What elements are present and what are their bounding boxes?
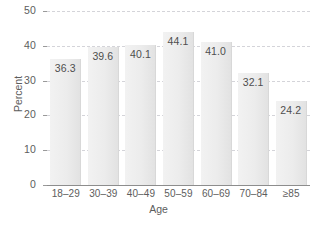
y-axis-tick-label: 0 xyxy=(10,178,36,190)
bar-value-label: 39.6 xyxy=(88,50,118,62)
x-axis-tick-label: 18–29 xyxy=(47,188,85,199)
y-axis-tick-label: 50 xyxy=(10,4,36,16)
y-axis-title: Percent xyxy=(12,54,24,134)
bar: 41.0 xyxy=(201,42,232,185)
bar-value-label: 40.1 xyxy=(125,48,155,60)
bar: 44.1 xyxy=(163,32,194,185)
y-axis-tick-label: 10 xyxy=(10,143,36,155)
bar: 39.6 xyxy=(88,47,119,185)
bar: 36.3 xyxy=(50,59,81,185)
x-axis-tick-label: 50–59 xyxy=(160,188,198,199)
bar-chart: 01020304050 36.339.640.144.141.032.124.2… xyxy=(0,0,317,228)
bar-value-label: 32.1 xyxy=(238,76,268,88)
x-axis-tick-label: ≥85 xyxy=(272,188,310,199)
bars-layer: 36.339.640.144.141.032.124.2 xyxy=(47,11,310,185)
x-axis-tick-label: 40–49 xyxy=(122,188,160,199)
bar-value-label: 36.3 xyxy=(50,62,80,74)
bar-value-label: 41.0 xyxy=(201,45,231,57)
bar: 32.1 xyxy=(238,73,269,185)
bar-value-label: 24.2 xyxy=(276,104,306,116)
bar-value-label: 44.1 xyxy=(163,35,193,47)
x-axis-tick-label: 70–84 xyxy=(235,188,273,199)
x-axis-line xyxy=(47,185,310,186)
bar: 40.1 xyxy=(125,45,156,185)
x-axis-title: Age xyxy=(0,203,317,215)
x-axis-tick-label: 60–69 xyxy=(197,188,235,199)
x-axis-tick-label: 30–39 xyxy=(85,188,123,199)
y-axis-tick-label: 40 xyxy=(10,39,36,51)
bar: 24.2 xyxy=(276,101,307,185)
